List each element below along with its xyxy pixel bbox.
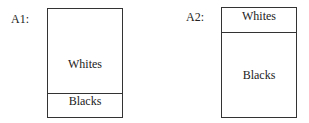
whites-label-a2: Whites [242,9,276,24]
blacks-label-a1: Blacks [69,94,102,109]
blacks-label-a2: Blacks [243,68,276,83]
diagram-label-a2: A2: [186,10,204,25]
whites-label-a1: Whites [68,57,102,72]
box-a2: Whites Blacks [221,7,297,118]
diagram-label-a1: A1: [11,12,29,27]
whites-segment-a1: Whites [48,9,122,93]
blacks-segment-a1: Blacks [48,94,122,116]
box-a1: Whites Blacks [47,8,123,118]
blacks-segment-a2: Blacks [222,33,296,117]
whites-segment-a2: Whites [222,8,296,26]
